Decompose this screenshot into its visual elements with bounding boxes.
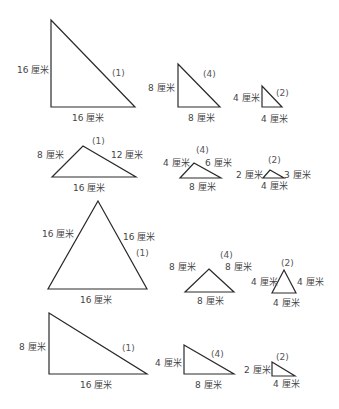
scale-tag: (4)	[211, 349, 224, 359]
triangle-similarity-diagram: 16 厘米16 厘米(1)8 厘米8 厘米(4)4 厘米4 厘米(2)8 厘米1…	[0, 0, 339, 409]
side-length-label: 16 厘米	[72, 112, 104, 123]
triangle-shape	[184, 345, 234, 374]
side-length-label: 4 厘米	[273, 378, 300, 389]
side-length-label: 8 厘米	[188, 112, 215, 123]
side-length-label: 16 厘米	[123, 231, 155, 242]
side-length-label: 4 厘米	[297, 276, 324, 287]
triangle-4: 8 厘米8 厘米(4)	[148, 64, 220, 123]
triangle-shape	[48, 201, 147, 289]
row-equilateral-triangles: 16 厘米16 厘米(1)16 厘米8 厘米8 厘米8 厘米(4)4 厘米4 厘…	[42, 201, 324, 308]
side-length-label: 4 厘米	[261, 180, 288, 191]
side-length-label: 8 厘米	[169, 261, 196, 272]
side-length-label: 4 厘米	[273, 297, 300, 308]
side-length-label: 16 厘米	[80, 294, 112, 305]
side-length-label: 8 厘米	[195, 379, 222, 390]
side-length-label: 2 厘米	[244, 364, 271, 375]
scale-tag: (1)	[92, 136, 105, 146]
triangle-1: 16 厘米16 厘米(1)16 厘米	[42, 201, 155, 305]
side-length-label: 4 厘米	[233, 92, 260, 103]
side-length-label: 8 厘米	[19, 341, 46, 352]
row-right-triangles-wide: 8 厘米16 厘米(1)4 厘米8 厘米(4)2 厘米4 厘米(2)	[19, 313, 300, 390]
scale-tag: (2)	[276, 352, 289, 362]
side-length-label: 16 厘米	[17, 64, 49, 75]
triangle-2: 4 厘米4 厘米(2)	[233, 86, 289, 124]
side-length-label: 6 厘米	[205, 157, 232, 168]
scale-tag: (1)	[122, 343, 135, 353]
side-length-label: 4 厘米	[155, 357, 182, 368]
triangle-2: 4 厘米4 厘米4 厘米(2)	[251, 258, 324, 308]
side-length-label: 16 厘米	[80, 379, 112, 390]
triangle-shape	[51, 20, 135, 107]
triangle-1: 8 厘米16 厘米(1)	[19, 313, 147, 390]
triangle-2: 2 厘米3 厘米4 厘米(2)	[236, 155, 311, 191]
triangle-1: 16 厘米16 厘米(1)	[17, 20, 135, 123]
triangle-4: 4 厘米6 厘米8 厘米(4)	[163, 145, 232, 192]
side-length-label: 4 厘米	[251, 276, 278, 287]
side-length-label: 4 厘米	[261, 113, 288, 124]
scale-tag: (4)	[220, 250, 233, 260]
triangle-4: 4 厘米8 厘米(4)	[155, 345, 234, 390]
side-length-label: 4 厘米	[163, 157, 190, 168]
side-length-label: 16 厘米	[42, 228, 74, 239]
side-length-label: 8 厘米	[225, 261, 252, 272]
scale-tag: (1)	[112, 68, 125, 78]
scale-tag: (4)	[196, 145, 209, 155]
scale-tag: (2)	[276, 88, 289, 98]
scale-tag: (2)	[281, 258, 294, 268]
side-length-label: 12 厘米	[111, 149, 143, 160]
side-length-label: 8 厘米	[189, 181, 216, 192]
side-length-label: 8 厘米	[197, 295, 224, 306]
side-length-label: 2 厘米	[236, 169, 263, 180]
triangle-shape	[263, 170, 284, 178]
triangle-4: 8 厘米8 厘米8 厘米(4)	[169, 250, 252, 306]
row-scalene-triangles: 8 厘米12 厘米16 厘米(1)4 厘米6 厘米8 厘米(4)2 厘米3 厘米…	[37, 136, 311, 193]
triangle-2: 2 厘米4 厘米(2)	[244, 352, 300, 389]
scale-tag: (2)	[268, 155, 281, 165]
triangle-shape	[185, 269, 234, 292]
row-right-triangles-large: 16 厘米16 厘米(1)8 厘米8 厘米(4)4 厘米4 厘米(2)	[17, 20, 289, 124]
side-length-label: 8 厘米	[37, 149, 64, 160]
scale-tag: (4)	[203, 69, 216, 79]
side-length-label: 3 厘米	[284, 169, 311, 180]
triangle-shape	[272, 362, 295, 376]
scale-tag: (1)	[136, 248, 149, 258]
side-length-label: 8 厘米	[148, 82, 175, 93]
side-length-label: 16 厘米	[73, 182, 105, 193]
triangle-1: 8 厘米12 厘米16 厘米(1)	[37, 136, 143, 193]
